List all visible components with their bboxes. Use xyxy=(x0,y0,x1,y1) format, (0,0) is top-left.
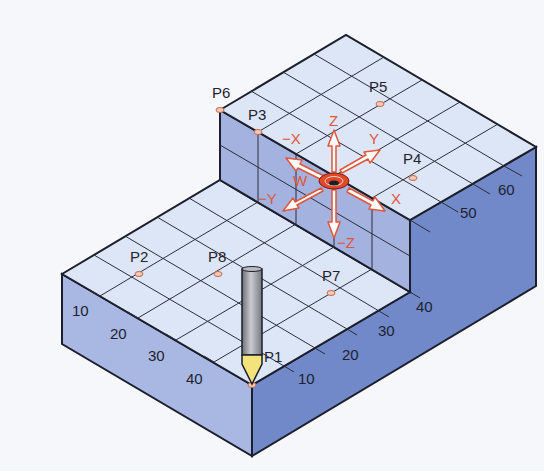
scale-right-10: 10 xyxy=(298,370,315,387)
axis-label-neg-y: −Y xyxy=(258,190,277,207)
scale-left-30: 30 xyxy=(148,347,165,364)
axis-label-y: Y xyxy=(369,130,379,147)
scale-right-50: 50 xyxy=(460,204,477,221)
origin-symbol-icon xyxy=(319,173,349,189)
point-label-p4: P4 xyxy=(403,150,421,167)
point-label-p8: P8 xyxy=(208,248,226,265)
point-label-p5: P5 xyxy=(369,78,387,95)
workpiece-diagram: 10 20 30 40 10 20 30 40 50 60 P6 P3 P5 P… xyxy=(0,0,544,471)
axis-label-x: X xyxy=(391,190,401,207)
point-label-p6: P6 xyxy=(212,84,230,101)
scale-left-20: 20 xyxy=(110,325,127,342)
axis-label-neg-z: −Z xyxy=(337,234,355,251)
scale-right-40: 40 xyxy=(416,298,433,315)
point-label-p1: P1 xyxy=(264,348,282,365)
axis-label-z: Z xyxy=(329,112,338,129)
axis-label-w: W xyxy=(293,172,308,189)
scale-left-10: 10 xyxy=(72,302,89,319)
point-label-p2: P2 xyxy=(130,248,148,265)
point-label-p3: P3 xyxy=(248,106,266,123)
probe-icon xyxy=(242,267,262,385)
scale-right-20: 20 xyxy=(342,346,359,363)
point-label-p7: P7 xyxy=(322,267,340,284)
scale-right-30: 30 xyxy=(378,322,395,339)
axis-label-neg-x: −X xyxy=(282,130,301,147)
scale-left-40: 40 xyxy=(186,370,203,387)
scale-right-60: 60 xyxy=(498,181,515,198)
diagram-stage: 10 20 30 40 10 20 30 40 50 60 P6 P3 P5 P… xyxy=(0,0,544,471)
